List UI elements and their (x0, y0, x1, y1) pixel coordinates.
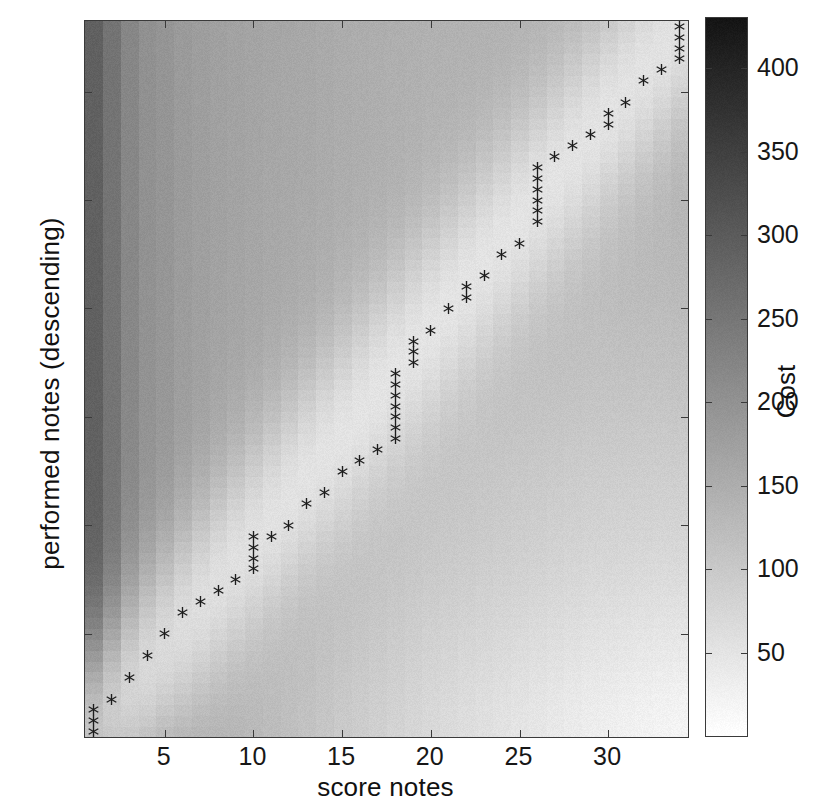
path-marker (336, 465, 349, 478)
path-marker (424, 324, 437, 337)
path-marker (353, 454, 366, 467)
y-tick-mark (85, 200, 92, 201)
path-marker (584, 128, 597, 141)
path-marker (495, 248, 508, 261)
x-tick-mark (520, 21, 521, 28)
path-marker (407, 335, 420, 348)
colorbar-tick-mark (741, 569, 747, 570)
colorbar-title: Cost (771, 262, 802, 522)
x-axis-label: score notes (84, 772, 687, 803)
colorbar-tick-mark (741, 68, 747, 69)
path-marker (194, 595, 207, 608)
y-tick-mark (681, 417, 688, 418)
colorbar-tick-mark (706, 402, 712, 403)
x-tick-mark (342, 730, 343, 737)
path-marker (318, 486, 331, 499)
x-tick-mark (608, 730, 609, 737)
x-tick-label: 5 (157, 742, 171, 771)
path-marker (531, 161, 544, 174)
path-marker (478, 269, 491, 282)
path-marker (265, 530, 278, 543)
x-tick-label: 20 (416, 742, 444, 771)
x-tick-mark (342, 21, 343, 28)
alignment-path-markers (85, 21, 688, 737)
path-marker (548, 150, 561, 163)
x-tick-mark (253, 730, 254, 737)
colorbar-tick-label: 50 (757, 637, 785, 666)
path-marker (229, 573, 242, 586)
path-marker (566, 139, 579, 152)
path-marker (619, 96, 632, 109)
x-tick-mark (520, 730, 521, 737)
path-marker (123, 671, 136, 684)
path-marker (87, 703, 100, 716)
y-tick-mark (85, 92, 92, 93)
path-marker (442, 302, 455, 315)
y-tick-mark (681, 308, 688, 309)
colorbar-tick-mark (706, 653, 712, 654)
colorbar-tick-label: 300 (757, 220, 799, 249)
y-tick-mark (681, 525, 688, 526)
colorbar-tick-mark (741, 486, 747, 487)
path-marker (637, 74, 650, 87)
y-tick-mark (85, 634, 92, 635)
x-tick-label: 15 (327, 742, 355, 771)
path-marker (371, 443, 384, 456)
path-marker (389, 367, 402, 380)
colorbar (705, 17, 748, 737)
path-marker (158, 627, 171, 640)
colorbar-gradient (706, 18, 747, 736)
colorbar-tick-mark (741, 319, 747, 320)
colorbar-tick-label: 350 (757, 136, 799, 165)
colorbar-tick-mark (706, 486, 712, 487)
y-tick-mark (681, 634, 688, 635)
path-marker (105, 693, 118, 706)
path-marker (176, 606, 189, 619)
colorbar-tick-mark (741, 152, 747, 153)
colorbar-tick-mark (741, 653, 747, 654)
colorbar-tick-label: 100 (757, 554, 799, 583)
x-tick-mark (165, 730, 166, 737)
colorbar-tick-mark (706, 569, 712, 570)
y-tick-mark (681, 200, 688, 201)
path-marker (602, 107, 615, 120)
heatmap-plot-area (84, 20, 689, 738)
colorbar-tick-mark (706, 319, 712, 320)
x-tick-mark (431, 730, 432, 737)
path-marker (673, 20, 686, 33)
y-tick-mark (85, 525, 92, 526)
x-tick-mark (608, 21, 609, 28)
path-marker (460, 280, 473, 293)
y-tick-mark (85, 308, 92, 309)
path-marker (513, 237, 526, 250)
path-marker (212, 584, 225, 597)
colorbar-tick-label: 400 (757, 53, 799, 82)
figure-root: 10203040506051015202530 score notes perf… (0, 0, 839, 810)
path-marker (141, 649, 154, 662)
colorbar-tick-mark (741, 235, 747, 236)
x-tick-label: 25 (504, 742, 532, 771)
x-tick-label: 10 (238, 742, 266, 771)
colorbar-tick-mark (706, 235, 712, 236)
colorbar-tick-mark (706, 152, 712, 153)
path-marker (282, 519, 295, 532)
x-tick-mark (253, 21, 254, 28)
x-tick-label: 30 (593, 742, 621, 771)
colorbar-tick-mark (706, 68, 712, 69)
path-marker (300, 497, 313, 510)
y-tick-mark (681, 92, 688, 93)
path-marker (247, 530, 260, 543)
colorbar-tick-mark (741, 402, 747, 403)
y-axis-label: performed notes (descending) (35, 84, 66, 704)
path-marker (655, 63, 668, 76)
x-tick-mark (165, 21, 166, 28)
y-tick-mark (85, 417, 92, 418)
x-tick-mark (431, 21, 432, 28)
